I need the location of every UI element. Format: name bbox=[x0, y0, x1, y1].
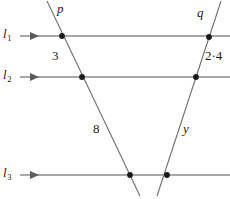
intersection-point-p-l3 bbox=[127, 172, 133, 178]
arrow-marker-l3 bbox=[30, 171, 39, 179]
intersection-point-p-l2 bbox=[79, 74, 85, 80]
transversal-line-q bbox=[157, 1, 221, 196]
geometry-figure: p q l1 l2 l3 3 8 2·4 y bbox=[0, 0, 230, 199]
segment-label-p-lower: 8 bbox=[93, 122, 100, 135]
line-label-q: q bbox=[197, 6, 204, 19]
parallel-line-label-l1-subscript: 1 bbox=[7, 33, 11, 43]
segment-label-q-lower: y bbox=[183, 122, 189, 135]
segment-label-q-upper: 2·4 bbox=[205, 49, 222, 62]
parallel-line-label-l2: l2 bbox=[3, 68, 11, 81]
intersection-point-q-l1 bbox=[206, 34, 212, 40]
segment-label-p-upper: 3 bbox=[52, 49, 59, 62]
figure-canvas bbox=[0, 0, 230, 199]
intersection-point-p-l1 bbox=[59, 33, 65, 39]
parallel-line-label-l3: l3 bbox=[3, 166, 11, 179]
parallel-line-label-l1: l1 bbox=[3, 27, 11, 40]
parallel-line-label-l2-subscript: 2 bbox=[7, 74, 11, 84]
arrow-marker-l2 bbox=[30, 73, 39, 81]
intersection-point-q-l2 bbox=[193, 74, 199, 80]
line-label-p: p bbox=[57, 2, 64, 15]
intersection-point-q-l3 bbox=[164, 172, 170, 178]
parallel-line-label-l3-subscript: 3 bbox=[7, 172, 11, 182]
arrow-marker-l1 bbox=[30, 32, 39, 40]
transversal-line-p bbox=[47, 1, 140, 196]
